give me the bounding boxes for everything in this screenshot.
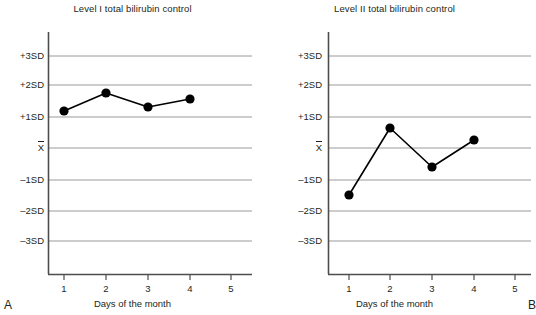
x-axis-caption-a: Days of the month [0,298,265,309]
y-tick-label-plus2sd-a: +2SD [0,79,44,90]
x-tick-label-5-a: 5 [221,283,241,294]
x-tick-label-4-a: 4 [180,283,200,294]
y-tick-label-plus3sd-b: +3SD [276,50,322,61]
data-point [185,94,194,103]
x-tick-label-1-a: 1 [54,283,74,294]
data-point [344,190,353,199]
x-axis-caption-b: Days of the month [262,298,527,309]
gridlines-b [328,56,531,241]
panel-a: Level I total bilirubin control [0,0,265,315]
y-tick-label-plus2sd-b: +2SD [276,79,322,90]
plot-area-a [0,0,265,315]
x-tick-label-3-b: 3 [422,283,442,294]
plot-area-b [266,0,531,315]
y-tick-label-minus3sd-a: –3SD [0,235,44,246]
x-tick-label-2-a: 2 [96,283,116,294]
data-point [469,135,478,144]
y-tick-label-plus3sd-a: +3SD [0,50,44,61]
data-series-a [59,88,194,115]
x-tick-label-5-b: 5 [505,283,525,294]
y-tick-label-mean-b: X [276,142,322,153]
data-point [385,123,394,132]
y-tick-label-minus3sd-b: –3SD [276,235,322,246]
panel-letter-b: B [528,298,536,312]
y-tick-label-minus1sd-a: –1SD [0,174,44,185]
mean-overbar: X [316,142,322,153]
y-tick-label-plus1sd-b: +1SD [276,111,322,122]
panel-b: Level II total bilirubin control [266,0,531,315]
mean-overbar: X [38,142,44,153]
data-point [59,106,68,115]
data-point [427,162,436,171]
x-tick-label-1-b: 1 [339,283,359,294]
panel-letter-a: A [4,298,12,312]
gridlines-a [48,56,252,241]
x-tick-label-2-b: 2 [380,283,400,294]
y-tick-label-plus1sd-a: +1SD [0,111,44,122]
x-tick-label-3-a: 3 [138,283,158,294]
y-tick-label-minus1sd-b: –1SD [276,174,322,185]
y-tick-label-minus2sd-a: –2SD [0,205,44,216]
y-tick-label-minus2sd-b: –2SD [276,205,322,216]
y-tick-label-mean-a: X [0,142,44,153]
data-point [101,88,110,97]
x-tick-label-4-b: 4 [464,283,484,294]
data-point [143,102,152,111]
data-series-b [344,123,478,199]
